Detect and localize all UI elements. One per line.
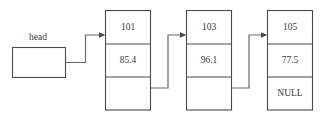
link-head-to-node-1-path [66,35,102,63]
arrow-head-icon [99,32,106,38]
linked-list-diagram: head 101 85.4 103 96. [0,0,324,124]
node-3-next: NULL [277,88,303,98]
node-2-key: 103 [202,22,217,32]
head-label: head [29,32,47,42]
head-box [13,48,66,78]
arrow-head-icon [180,32,187,38]
node-3-key: 105 [283,22,298,32]
list-node-1: 101 85.4 [106,11,151,111]
link-node-1-to-node-2-path [151,35,183,88]
head-pointer-group: head [13,32,66,78]
link-node-2-to-node-3-path [232,35,264,88]
arrow-head-icon [261,32,268,38]
link-node-1-to-node-2 [151,32,187,88]
node-1-value: 85.4 [120,55,137,65]
node-1-key: 101 [121,22,136,32]
link-node-2-to-node-3 [232,32,268,88]
list-node-2: 103 96.1 [187,11,232,111]
link-head-to-node-1 [66,32,106,62]
node-2-value: 96.1 [201,55,218,65]
node-3-value: 77.5 [282,55,299,65]
list-node-3: 105 77.5 NULL [268,11,313,111]
